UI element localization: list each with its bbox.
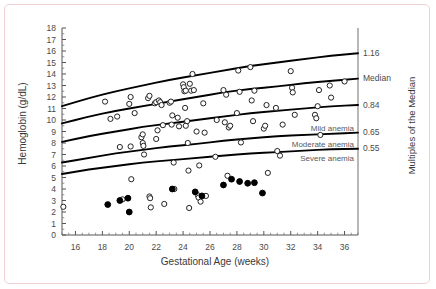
data-point-open [249,98,254,103]
x-tick-label: 32 [281,242,301,252]
data-point-filled [169,186,175,192]
data-point-open [197,163,202,168]
data-point-open [316,88,321,93]
data-point-filled [229,176,235,182]
data-point-open [328,95,333,100]
x-tick-label: 18 [92,242,112,252]
data-point-open [327,83,332,88]
data-point-open [186,168,191,173]
data-point-filled [199,193,205,199]
x-tick-label: 28 [227,242,247,252]
reference-curve-1.16 [62,53,358,106]
y-tick-label: 0 [42,230,56,240]
y-tick-label: 15 [42,58,56,68]
x-tick-label: 16 [65,242,85,252]
data-point-open [236,68,241,73]
data-point-filled [221,182,227,188]
y-tick-label: 5 [42,173,56,183]
data-point-open [61,204,66,209]
data-point-open [234,111,239,116]
data-point-open [132,111,137,116]
right-tick-label: 1.16 [363,48,380,58]
data-point-filled [192,189,198,195]
data-point-open [108,116,113,121]
curve-annotation: Mild anemia [0,124,356,133]
right-tick-label: 0.55 [363,143,380,153]
y-tick-label: 4 [42,184,56,194]
data-point-open [148,205,153,210]
data-point-open [214,117,219,122]
data-point-open [187,81,192,86]
x-axis-label: Gestational Age (weeks) [100,256,330,267]
data-point-open [237,89,242,94]
data-point-open [127,101,132,106]
data-point-filled [125,195,131,201]
y-tick-label: 12 [42,92,56,102]
right-axis-label: Multiples of the Median [406,61,417,191]
data-point-filled [105,202,111,208]
data-point-open [198,199,203,204]
y-tick-label: 3 [42,196,56,206]
data-point-open [292,112,297,117]
x-tick-label: 30 [254,242,274,252]
data-point-open [264,102,269,107]
data-point-filled [117,198,123,204]
data-point-open [159,102,164,107]
data-point-filled [260,190,266,196]
chart-figure: Hemoglobin (g/dL) Gestational Age (weeks… [0,0,436,289]
x-tick-label: 20 [119,242,139,252]
x-tick-label: 34 [308,242,328,252]
right-tick-label: 0.84 [363,100,380,110]
curve-annotation: Severe anemia [0,154,356,163]
data-point-open [288,69,293,74]
data-point-open [102,99,107,104]
y-tick-label: 17 [42,35,56,45]
x-tick-label: 22 [146,242,166,252]
right-tick-label: Median [363,73,391,83]
data-point-open [148,196,153,201]
data-point-open [252,88,257,93]
x-tick-label: 26 [200,242,220,252]
data-point-open [315,104,320,109]
data-point-open [248,65,253,70]
y-tick-label: 18 [42,23,56,33]
data-point-open [273,105,278,110]
data-point-open [190,71,195,76]
y-tick-label: 14 [42,69,56,79]
y-tick-label: 11 [42,104,56,114]
data-point-open [170,113,175,118]
data-point-open [183,88,188,93]
data-point-open [168,99,173,104]
y-tick-label: 16 [42,46,56,56]
data-point-open [115,114,120,119]
data-point-filled [126,209,132,215]
data-point-open [162,201,167,206]
data-point-filled [237,179,243,185]
right-tick-label: 0.65 [363,127,380,137]
data-point-open [290,90,295,95]
data-point-open [175,115,180,120]
x-tick-label: 24 [173,242,193,252]
y-tick-label: 2 [42,207,56,217]
data-point-open [224,92,229,97]
data-point-open [201,101,206,106]
data-point-filled [245,180,251,186]
y-tick-label: 1 [42,219,56,229]
data-point-open [129,177,134,182]
data-point-open [128,94,133,99]
y-tick-label: 13 [42,81,56,91]
data-point-filled [252,180,258,186]
curve-annotation: Moderate anemia [0,140,356,149]
x-tick-label: 36 [335,242,355,252]
data-point-open [314,116,319,121]
data-point-open [318,132,323,137]
data-point-open [183,105,188,110]
data-point-open [187,205,192,210]
data-point-open [191,88,196,93]
data-point-open [342,79,347,84]
data-point-open [265,170,270,175]
data-point-open [147,93,152,98]
